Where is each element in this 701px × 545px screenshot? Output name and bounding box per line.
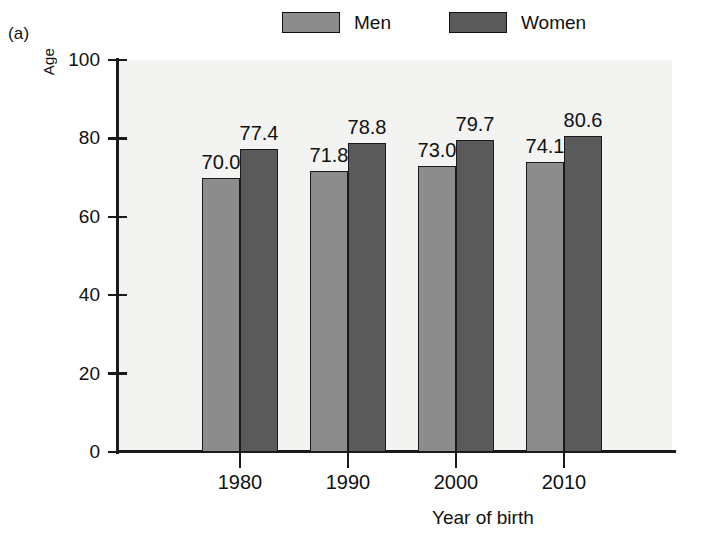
y-tick-label-wrap: 0 [56,442,100,462]
y-tick-label: 100 [56,50,100,69]
y-tick-label-wrap: 100 [56,50,100,70]
y-tick-label: 20 [56,364,100,383]
bar-women-1990[interactable] [348,143,386,452]
legend-label-men: Men [354,13,391,32]
legend-entry-women: Women [449,12,586,33]
y-tick-mark [108,372,127,375]
bar-men-2000[interactable] [418,166,456,452]
y-tick-mark [108,59,127,62]
y-tick-mark [108,451,127,454]
y-tick-label: 60 [56,207,100,226]
y-tick-label-wrap: 80 [56,128,100,148]
bar-value-label-women-2000: 79.7 [430,114,520,134]
legend-label-women: Women [521,13,586,32]
panel-label: (a) [8,24,29,44]
bar-women-1980[interactable] [240,149,278,452]
y-axis-title: Age [40,48,57,75]
bar-men-1990[interactable] [310,171,348,452]
y-tick-mark [108,137,127,140]
y-tick-label: 40 [56,285,100,304]
x-tick-label-1980: 1980 [180,472,300,492]
legend-entry-men: Men [282,12,391,33]
bar-women-2000[interactable] [456,140,494,452]
x-tick-label-1990: 1990 [288,472,408,492]
x-tick-mark [563,452,566,468]
x-axis-title: Year of birth [432,508,534,527]
x-tick-mark [455,452,458,468]
x-tick-label-2010: 2010 [504,472,624,492]
bar-value-label-women-1990: 78.8 [322,117,412,137]
y-tick-label: 0 [56,442,100,461]
y-axis-line [116,58,119,454]
bar-value-label-women-1980: 77.4 [214,123,304,143]
x-tick-mark [239,452,242,468]
y-tick-label-wrap: 40 [56,285,100,305]
bar-men-1980[interactable] [202,178,240,452]
x-tick-mark [347,452,350,468]
legend-swatch-women-icon [449,12,507,33]
chart-legend: Men Women [282,12,586,33]
bar-women-2010[interactable] [564,136,602,452]
legend-swatch-men-icon [282,12,340,33]
bar-value-label-women-2010: 80.6 [538,110,628,130]
y-tick-label-wrap: 60 [56,207,100,227]
y-tick-mark [108,216,127,219]
bar-men-2010[interactable] [526,162,564,452]
x-tick-label-2000: 2000 [396,472,516,492]
y-tick-label-wrap: 20 [56,364,100,384]
y-tick-mark [108,294,127,297]
y-tick-label: 80 [56,128,100,147]
